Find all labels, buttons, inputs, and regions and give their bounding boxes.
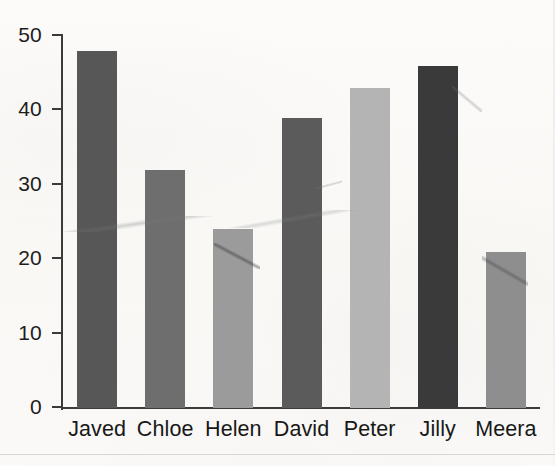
x-axis-label-meera: Meera [464,414,548,444]
bar-chloe [145,170,185,408]
y-axis-tick-label: 30 [0,173,42,194]
y-axis-tick [52,332,62,334]
y-axis-tick [52,406,62,408]
x-axis-tick-labels: JavedChloeHelenDavidPeterJillyMeera [63,414,540,448]
y-axis-tick [52,183,62,185]
y-axis-tick-label: 0 [0,396,42,417]
y-axis-tick [52,257,62,259]
y-axis-tick-label: 10 [0,322,42,343]
bar-javed [77,51,117,408]
y-axis-tick-label: 20 [0,247,42,268]
bar-meera [486,252,526,408]
bar-helen [213,229,253,408]
y-axis-tick-label: 50 [0,24,42,45]
y-axis-tick [52,108,62,110]
y-axis-tick [52,34,62,36]
bars-layer [63,30,540,408]
bar-david [282,118,322,408]
bar-peter [350,88,390,408]
bar-jilly [418,66,458,408]
bar-chart-figure: 01020304050 JavedChloeHelenDavidPeterJil… [0,0,555,466]
y-axis-tick-label: 40 [0,98,42,119]
